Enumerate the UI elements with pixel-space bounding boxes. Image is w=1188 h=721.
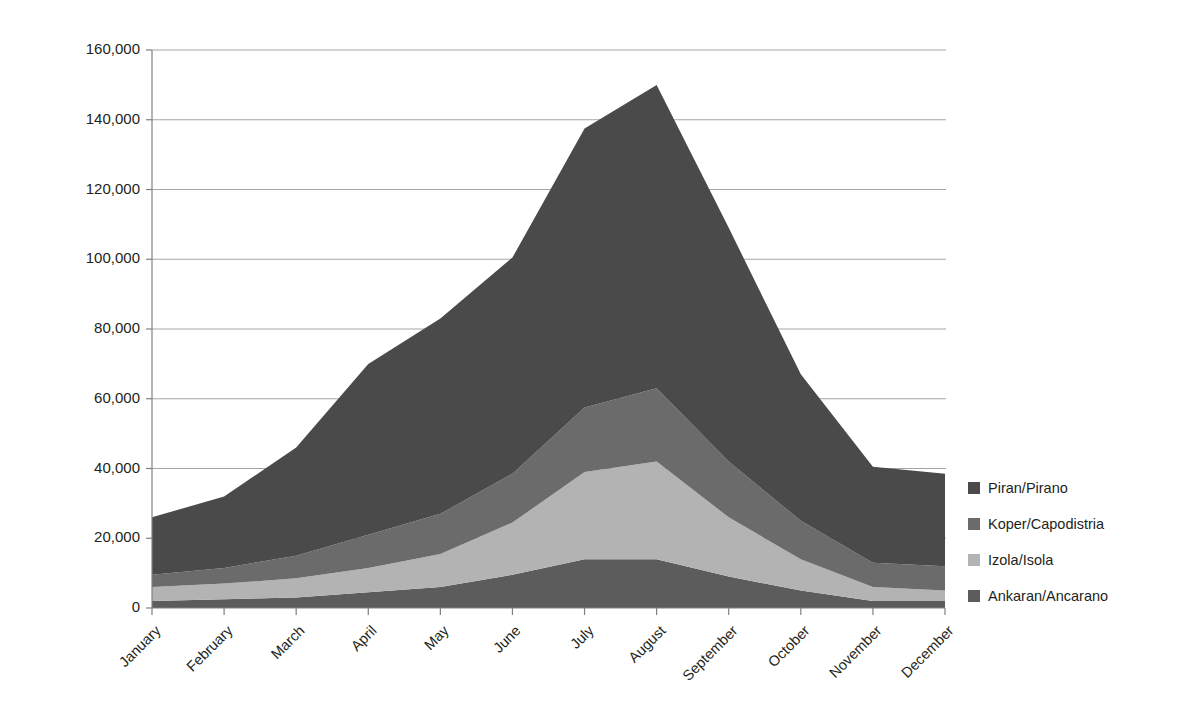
y-tick-label: 60,000 xyxy=(94,389,140,406)
legend-item: Ankaran/Ancarano xyxy=(968,578,1183,614)
y-tick-label: 40,000 xyxy=(94,459,140,476)
legend-item: Koper/Capodistria xyxy=(968,506,1183,542)
y-tick-label: 0 xyxy=(132,598,140,615)
legend-swatch-icon xyxy=(968,518,980,530)
legend-swatch-icon xyxy=(968,482,980,494)
stacked-area-series xyxy=(152,85,945,608)
legend-swatch-icon xyxy=(968,554,980,566)
y-tick-label: 160,000 xyxy=(86,40,140,57)
y-tick-label: 20,000 xyxy=(94,528,140,545)
y-tick-label: 140,000 xyxy=(86,110,140,127)
legend-label: Izola/Isola xyxy=(988,552,1053,568)
y-tick-label: 80,000 xyxy=(94,319,140,336)
legend-label: Ankaran/Ancarano xyxy=(988,588,1108,604)
tourist-arrivals-area-chart: Number of tourist arrivals per municipal… xyxy=(0,0,1188,721)
y-tick-label: 120,000 xyxy=(86,180,140,197)
legend-item: Piran/Pirano xyxy=(968,470,1183,506)
legend-label: Piran/Pirano xyxy=(988,480,1068,496)
y-tick-label: 100,000 xyxy=(86,249,140,266)
legend-label: Koper/Capodistria xyxy=(988,516,1104,532)
legend-item: Izola/Isola xyxy=(968,542,1183,578)
legend-swatch-icon xyxy=(968,590,980,602)
chart-legend: Piran/PiranoKoper/CapodistriaIzola/Isola… xyxy=(968,470,1183,614)
